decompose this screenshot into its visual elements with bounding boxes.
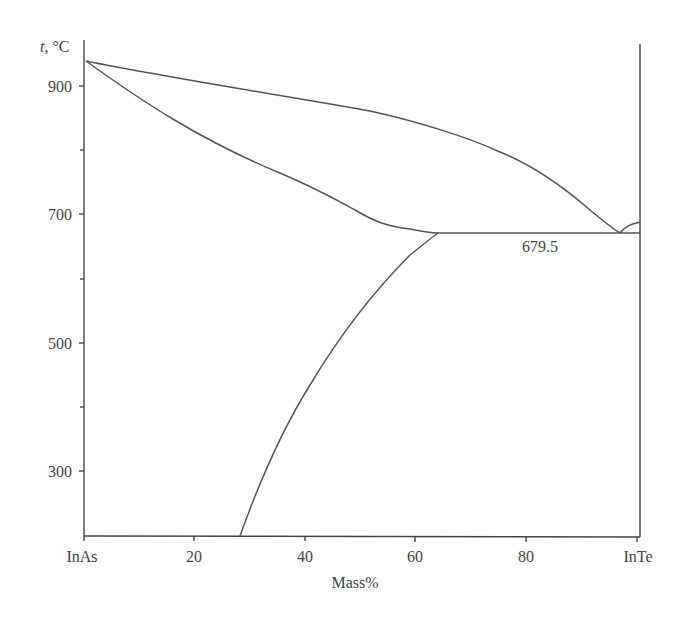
phase-diagram: t, °C 900 700 500 300 InAs 20 40 60 80 I… (0, 0, 688, 626)
y-label-700: 700 (48, 206, 72, 223)
x-label-40: 40 (297, 548, 313, 565)
x-label-inte: InTe (623, 548, 652, 565)
eutectic-temperature-label: 679.5 (522, 238, 558, 255)
x-label-20: 20 (186, 548, 202, 565)
inte-liquidus-curve (620, 222, 640, 233)
solidus-curve (86, 61, 438, 233)
x-label-60: 60 (407, 548, 423, 565)
x-label-80: 80 (518, 548, 534, 565)
x-axis (84, 536, 640, 537)
y-ticks (79, 86, 84, 471)
x-axis-title: Mass% (331, 574, 378, 591)
y-label-300: 300 (48, 463, 72, 480)
solvus-curve (240, 233, 438, 536)
x-label-inas: InAs (66, 548, 97, 565)
liquidus-curve (86, 61, 620, 233)
y-axis-title: t, °C (40, 38, 70, 55)
y-label-900: 900 (48, 78, 72, 95)
y-label-500: 500 (48, 335, 72, 352)
